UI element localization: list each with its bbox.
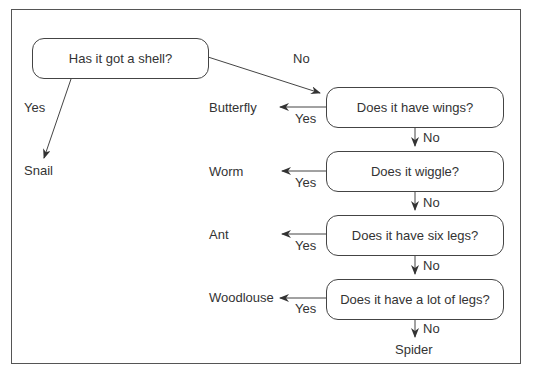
question-lot-of-legs: Does it have a lot of legs? bbox=[326, 279, 504, 320]
lot-of-legs-yes-label: Yes bbox=[295, 301, 316, 316]
question-six-legs: Does it have six legs? bbox=[326, 215, 504, 256]
question-wings-text: Does it have wings? bbox=[357, 100, 473, 115]
root-no-label: No bbox=[293, 51, 310, 66]
root-yes-label: Yes bbox=[24, 100, 45, 115]
result-ant: Ant bbox=[209, 227, 229, 242]
result-butterfly: Butterfly bbox=[209, 100, 257, 115]
result-snail: Snail bbox=[24, 163, 53, 178]
question-wiggle-text: Does it wiggle? bbox=[371, 164, 459, 179]
wiggle-no-label: No bbox=[423, 195, 440, 210]
result-worm: Worm bbox=[209, 164, 243, 179]
question-wings: Does it have wings? bbox=[326, 87, 504, 128]
question-six-legs-text: Does it have six legs? bbox=[352, 228, 478, 243]
question-lot-of-legs-text: Does it have a lot of legs? bbox=[340, 292, 490, 307]
six-legs-no-label: No bbox=[423, 258, 440, 273]
question-shell: Has it got a shell? bbox=[32, 38, 209, 79]
wings-no-label: No bbox=[423, 130, 440, 145]
question-wiggle: Does it wiggle? bbox=[326, 151, 504, 192]
six-legs-yes-label: Yes bbox=[295, 238, 316, 253]
lot-of-legs-no-label: No bbox=[423, 321, 440, 336]
wings-yes-label: Yes bbox=[295, 111, 316, 126]
result-woodlouse: Woodlouse bbox=[209, 290, 274, 305]
result-spider: Spider bbox=[395, 342, 433, 357]
question-shell-text: Has it got a shell? bbox=[69, 51, 172, 66]
wiggle-yes-label: Yes bbox=[295, 175, 316, 190]
